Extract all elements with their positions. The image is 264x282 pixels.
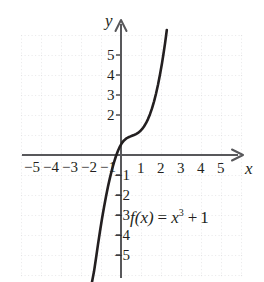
y-tick-label: 5 xyxy=(107,48,115,63)
x-axis-label: x xyxy=(245,160,253,177)
equation-exponent: 3 xyxy=(179,207,184,218)
x-tick-label: 5 xyxy=(217,161,225,176)
x-tick-label: −4 xyxy=(43,160,59,175)
equation-plus: + xyxy=(188,208,198,227)
equation-base: x xyxy=(171,208,179,227)
y-tick-label: 3 xyxy=(107,88,115,103)
equation-function-part: f(x) xyxy=(130,208,154,227)
x-tick-label: −5 xyxy=(24,160,40,175)
y-tick-label: −3 xyxy=(114,208,130,223)
y-tick-label: −2 xyxy=(114,188,130,203)
function-graph-figure: −5 −4 −3 −2 −1 1 2 3 4 5 5 4 3 2 −1 −2 −… xyxy=(0,0,264,282)
x-tick-label: −3 xyxy=(62,160,78,175)
x-tick-label: 1 xyxy=(137,161,145,176)
y-tick-label: 2 xyxy=(107,108,115,123)
y-tick-label: −4 xyxy=(114,228,130,243)
x-tick-label: 2 xyxy=(157,161,165,176)
x-tick-label: 4 xyxy=(197,161,205,176)
y-tick-label: −5 xyxy=(114,248,130,263)
equation-constant: 1 xyxy=(200,208,209,227)
x-tick-label: 3 xyxy=(177,161,185,176)
y-tick-label: 4 xyxy=(107,68,115,83)
plot-canvas xyxy=(0,0,264,282)
equation-annotation: f(x)=x3+1 xyxy=(130,208,209,226)
y-axis-label: y xyxy=(105,12,113,29)
x-tick-label: −2 xyxy=(81,160,97,175)
y-tick-label: −1 xyxy=(114,168,130,183)
equation-equals: = xyxy=(158,208,168,227)
